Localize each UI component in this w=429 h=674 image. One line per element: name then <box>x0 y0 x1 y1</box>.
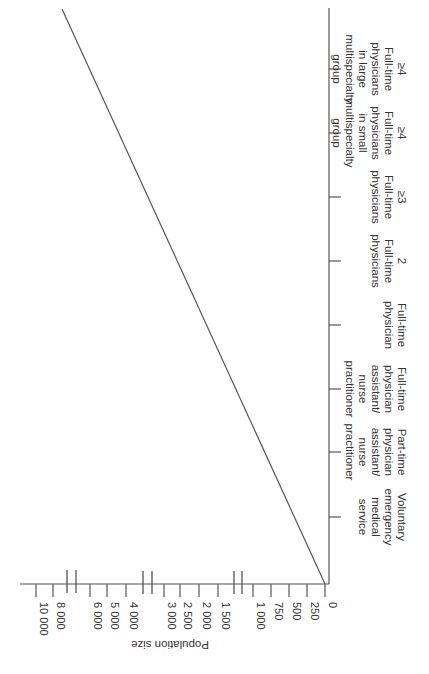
svg-text:750: 750 <box>273 602 285 620</box>
svg-text:service: service <box>357 499 369 535</box>
svg-text:nurse: nurse <box>357 375 369 404</box>
svg-text:6 000: 6 000 <box>92 602 104 630</box>
svg-text:physicians: physicians <box>370 234 382 288</box>
svg-text:Full-time: Full-time <box>383 239 395 283</box>
svg-text:≥4: ≥4 <box>396 127 408 140</box>
svg-text:3 000: 3 000 <box>166 602 178 630</box>
axis-breaks <box>67 570 242 594</box>
svg-text:practitioner: practitioner <box>344 424 356 481</box>
svg-text:physician: physician <box>383 365 395 413</box>
svg-text:Full-time: Full-time <box>396 367 408 411</box>
svg-text:physician: physician <box>383 301 395 349</box>
svg-text:nurse: nurse <box>357 438 369 467</box>
chart: 0 250 500 750 1 000 1 500 2 000 2 500 3 … <box>0 0 429 674</box>
svg-text:250: 250 <box>309 602 321 620</box>
svg-text:5 000: 5 000 <box>109 602 121 630</box>
svg-text:in large: in large <box>357 50 369 88</box>
svg-text:physicians: physicians <box>370 42 382 96</box>
population-axis-title: Population size <box>131 639 209 651</box>
category-label-full-time-pa-np: Full-time physician assistant/ nurse pra… <box>344 361 408 418</box>
svg-text:500: 500 <box>291 602 303 620</box>
svg-text:group: group <box>331 118 343 147</box>
category-label-4-plus-large-multispecialty: ≥4 Full-time physicians in large multisp… <box>331 34 408 103</box>
svg-text:Full-time: Full-time <box>396 303 408 347</box>
svg-text:practitioner: practitioner <box>344 361 356 418</box>
svg-text:Full-time: Full-time <box>383 47 395 91</box>
category-label-2-physicians: 2 Full-time physicians <box>370 234 408 288</box>
svg-text:Voluntary: Voluntary <box>396 493 408 541</box>
svg-text:2 500: 2 500 <box>182 602 194 630</box>
svg-text:in small: in small <box>357 114 369 153</box>
category-label-part-time-pa-np: Part-time physician assistant/ nurse pra… <box>344 424 408 481</box>
svg-text:Full-time: Full-time <box>383 175 395 219</box>
svg-text:≥4: ≥4 <box>396 63 408 76</box>
svg-text:assistant/: assistant/ <box>370 365 382 414</box>
svg-text:emergency: emergency <box>383 489 395 546</box>
category-label-3-plus-physicians: ≥3 Full-time physicians <box>370 170 408 224</box>
category-label-full-time-physician: Full-time physician <box>383 301 408 349</box>
svg-text:multispecialty: multispecialty <box>344 98 356 167</box>
svg-text:8 000: 8 000 <box>55 602 67 630</box>
category-label-voluntary-ems: Voluntary emergency medical service <box>357 489 408 546</box>
category-label-4-plus-small-multispecialty: ≥4 Full-time physicians in small multisp… <box>331 98 408 167</box>
svg-text:1 000: 1 000 <box>255 602 267 630</box>
svg-text:10 000: 10 000 <box>38 602 50 636</box>
svg-text:physicians: physicians <box>370 106 382 160</box>
series-line <box>62 9 325 584</box>
population-tick-labels: 0 250 500 750 1 000 1 500 2 000 2 500 3 … <box>38 602 339 636</box>
svg-text:group: group <box>331 54 343 83</box>
svg-text:0: 0 <box>327 602 339 608</box>
svg-text:multispecialty: multispecialty <box>344 34 356 103</box>
svg-text:Part-time: Part-time <box>396 429 408 476</box>
svg-text:physician: physician <box>383 428 395 476</box>
svg-text:assistant/: assistant/ <box>370 428 382 477</box>
svg-text:4 000: 4 000 <box>128 602 140 630</box>
svg-text:Full-time: Full-time <box>383 111 395 155</box>
svg-text:medical: medical <box>370 497 382 537</box>
svg-text:1 500: 1 500 <box>220 602 232 630</box>
svg-text:2 000: 2 000 <box>201 602 213 630</box>
category-labels: Voluntary emergency medical service Part… <box>331 34 408 545</box>
svg-text:≥3: ≥3 <box>396 191 408 204</box>
population-ticks <box>36 584 325 597</box>
svg-text:physicians: physicians <box>370 170 382 224</box>
svg-text:2: 2 <box>396 258 408 264</box>
